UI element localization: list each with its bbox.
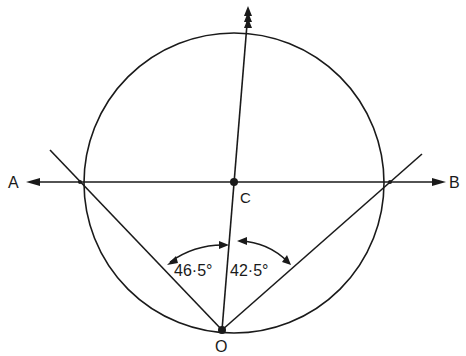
geometry-diagram: A B C O 46·5° 42·5° (0, 0, 466, 356)
intersection-right (388, 180, 392, 184)
point-O (218, 326, 226, 334)
point-C (230, 178, 238, 186)
label-A: A (8, 174, 19, 191)
left-chord-line (50, 150, 222, 330)
angle-arc-right (240, 241, 288, 262)
arrowhead-right-icon (432, 178, 446, 186)
arc-arrow-right-end-icon (282, 255, 291, 265)
arc-arrow-right-start-icon (237, 237, 247, 245)
arc-arrow-left-end-icon (219, 241, 229, 249)
line-O-through-C (222, 12, 248, 330)
label-B: B (449, 174, 460, 191)
label-C: C (240, 189, 251, 206)
label-O: O (215, 338, 227, 355)
arrowhead-left-icon (26, 178, 40, 186)
angle-label-left: 46·5° (174, 262, 212, 279)
intersection-left (78, 180, 82, 184)
angle-arc-left (170, 245, 226, 262)
double-arrowhead-icon (244, 6, 252, 28)
angle-label-right: 42·5° (230, 262, 268, 279)
